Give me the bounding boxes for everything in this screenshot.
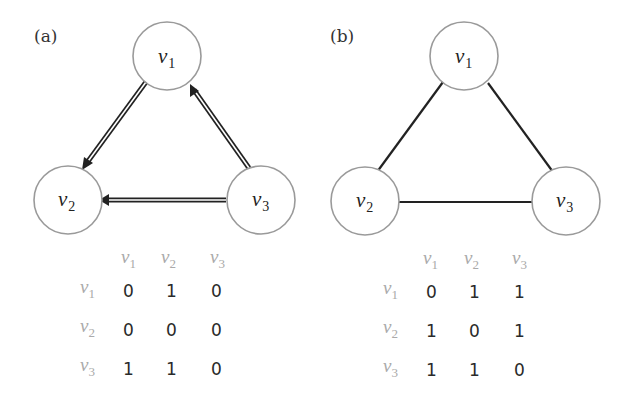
node-v2: v2 xyxy=(331,167,399,235)
row-header-v1: v1 xyxy=(80,276,95,301)
matrix-cell: 1 xyxy=(166,281,177,301)
matrix-cell: 1 xyxy=(166,359,177,379)
row-header-v2: v2 xyxy=(383,316,398,341)
matrix-cell: 1 xyxy=(469,360,480,380)
row-header-v3: v3 xyxy=(383,355,398,380)
panel-a: (a) v1 v2 v3 xyxy=(34,22,295,379)
node-v3: v3 xyxy=(227,166,295,234)
matrix-cell: 0 xyxy=(514,360,525,380)
matrix-cell: 1 xyxy=(123,359,134,379)
row-header-v1: v1 xyxy=(383,277,398,302)
matrix-cell: 1 xyxy=(426,321,437,341)
matrix-cell: 1 xyxy=(469,282,480,302)
col-header-v1: v1 xyxy=(121,246,136,271)
col-header-v2: v2 xyxy=(464,247,479,272)
matrix-cell: 0 xyxy=(211,281,222,301)
edge-v3-to-v2 xyxy=(99,194,226,206)
matrix-cell: 0 xyxy=(211,320,222,340)
edge-v1-v2 xyxy=(377,82,443,172)
col-header-v3: v3 xyxy=(512,247,527,272)
panel-b-label: (b) xyxy=(330,26,354,46)
figure-canvas: (a) v1 v2 v3 xyxy=(0,0,629,406)
edge-v1-to-v2 xyxy=(82,82,146,170)
matrix-cell: 1 xyxy=(426,360,437,380)
adjacency-matrix-b: v1 v2 v3 v1 v2 v3 0 1 1 1 0 1 1 1 0 xyxy=(383,247,527,380)
edge-v3-to-v1 xyxy=(190,84,249,168)
col-header-v3: v3 xyxy=(210,246,225,271)
edge-v1-v3 xyxy=(488,83,553,172)
matrix-cell: 0 xyxy=(426,282,437,302)
row-header-v2: v2 xyxy=(80,315,95,340)
col-header-v2: v2 xyxy=(161,246,176,271)
matrix-cell: 0 xyxy=(469,321,480,341)
matrix-cell: 0 xyxy=(166,320,177,340)
matrix-cell: 0 xyxy=(211,359,222,379)
matrix-cell: 0 xyxy=(123,320,134,340)
matrix-cell: 1 xyxy=(514,321,525,341)
matrix-cell: 1 xyxy=(514,282,525,302)
col-header-v1: v1 xyxy=(423,247,438,272)
panel-a-label: (a) xyxy=(34,26,57,46)
adjacency-matrix-a: v1 v2 v3 v1 v2 v3 0 1 0 0 0 0 1 1 0 xyxy=(80,246,225,379)
matrix-cell: 0 xyxy=(123,281,134,301)
node-v1: v1 xyxy=(133,22,201,90)
panel-b: (b) v1 v2 v3 v1 v2 v3 v1 v2 v3 0 1 1 xyxy=(330,22,600,380)
node-v2: v2 xyxy=(34,166,102,234)
node-v1: v1 xyxy=(430,22,498,90)
row-header-v3: v3 xyxy=(80,354,95,379)
node-v3: v3 xyxy=(532,167,600,235)
